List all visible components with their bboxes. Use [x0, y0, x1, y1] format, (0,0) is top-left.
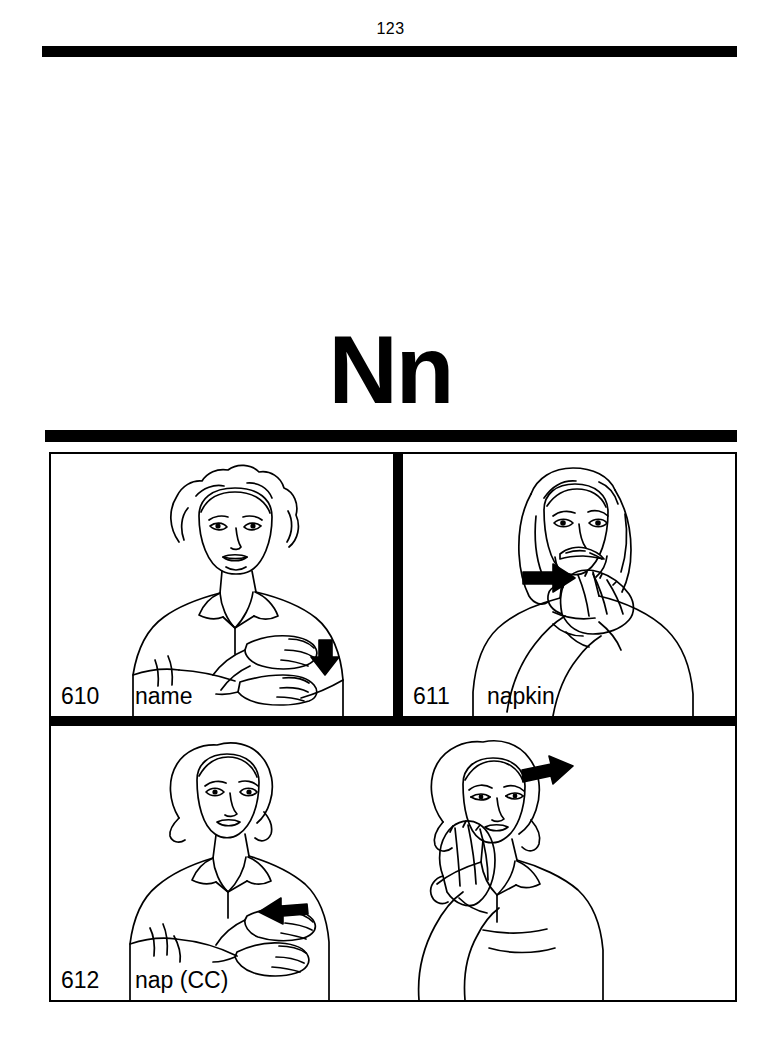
caption-number: 612 [61, 967, 135, 994]
panel-row-top: 610 name [51, 454, 735, 716]
header-rule [42, 46, 737, 57]
grid-top-rule [45, 430, 737, 442]
letter-heading: Nn [0, 322, 781, 418]
illustration-name [51, 454, 393, 716]
caption-612: 612 nap (CC) [61, 967, 228, 994]
caption-word: napkin [487, 683, 555, 710]
column-divider [393, 454, 403, 716]
row-divider [51, 716, 735, 726]
caption-number: 611 [413, 683, 487, 710]
panel-612-nap[interactable]: 612 nap (CC) [51, 726, 735, 1000]
caption-610: 610 name [61, 683, 193, 710]
panel-611-napkin[interactable]: 611 napkin [403, 454, 735, 716]
illustration-nap [51, 726, 735, 1000]
panel-grid: 610 name [49, 452, 737, 1002]
page-number: 123 [0, 20, 781, 38]
caption-611: 611 napkin [413, 683, 555, 710]
caption-number: 610 [61, 683, 135, 710]
caption-word: nap (CC) [135, 967, 228, 994]
panel-610-name[interactable]: 610 name [51, 454, 393, 716]
caption-word: name [135, 683, 193, 710]
illustration-napkin [403, 454, 735, 716]
panel-row-bottom: 612 nap (CC) [51, 726, 735, 1000]
